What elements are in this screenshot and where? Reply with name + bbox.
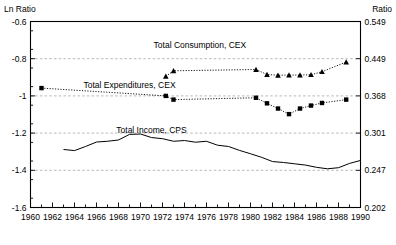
series-1-marker bbox=[164, 94, 168, 98]
y-axis-title-right: Ratio bbox=[372, 4, 392, 14]
y-tick-label-right-0: 0.549 bbox=[365, 17, 387, 27]
x-tick-label-1978: 1978 bbox=[219, 212, 238, 222]
y-tick-label-right-4: 0.247 bbox=[365, 165, 387, 175]
series-1-marker bbox=[171, 97, 175, 101]
x-tick-label-1984: 1984 bbox=[285, 212, 304, 222]
y-tick-label-left-2: -1 bbox=[19, 91, 27, 101]
series-1-marker bbox=[254, 96, 258, 100]
x-tick-label-1972: 1972 bbox=[153, 212, 172, 222]
y-tick-label-left-1: -0.8 bbox=[12, 54, 27, 64]
x-tick-label-1976: 1976 bbox=[197, 212, 216, 222]
x-tick-label-1964: 1964 bbox=[65, 212, 84, 222]
y-tick-label-left-3: -1.2 bbox=[12, 128, 27, 138]
series-1-marker bbox=[276, 106, 280, 110]
series-1-marker bbox=[39, 86, 43, 90]
series-1-marker bbox=[287, 112, 291, 116]
x-tick-label-1970: 1970 bbox=[131, 212, 150, 222]
series-1-marker bbox=[309, 103, 313, 107]
series-1-marker bbox=[344, 97, 348, 101]
chart-container: -0.6-0.8-1-1.2-1.4-1.60.5490.4490.3680.3… bbox=[0, 0, 396, 245]
series-1-marker bbox=[298, 106, 302, 110]
x-tick-label-1960: 1960 bbox=[21, 212, 40, 222]
x-tick-label-1966: 1966 bbox=[87, 212, 106, 222]
y-tick-label-right-1: 0.449 bbox=[365, 54, 387, 64]
x-tick-label-1988: 1988 bbox=[329, 212, 348, 222]
x-tick-label-1974: 1974 bbox=[175, 212, 194, 222]
series-0-marker bbox=[163, 74, 169, 79]
y-tick-label-right-2: 0.368 bbox=[365, 91, 387, 101]
series-1-marker bbox=[265, 101, 269, 105]
x-tick-label-1980: 1980 bbox=[241, 212, 260, 222]
x-tick-label-1968: 1968 bbox=[109, 212, 128, 222]
economic-ratio-line-chart: -0.6-0.8-1-1.2-1.4-1.60.5490.4490.3680.3… bbox=[0, 0, 396, 245]
x-tick-label-1982: 1982 bbox=[263, 212, 282, 222]
x-tick-label-1990: 1990 bbox=[351, 212, 370, 222]
series-label-0: Total Consumption, CEX bbox=[154, 40, 247, 50]
y-axis-title-left: Ln Ratio bbox=[4, 4, 36, 14]
y-tick-label-left-0: -0.6 bbox=[12, 17, 27, 27]
series-label-2: Total Income, CPS bbox=[116, 125, 187, 135]
x-tick-label-1986: 1986 bbox=[307, 212, 326, 222]
series-0-marker bbox=[319, 69, 325, 74]
y-tick-label-left-4: -1.4 bbox=[12, 165, 27, 175]
y-tick-label-right-3: 0.301 bbox=[365, 128, 387, 138]
series-0-marker bbox=[343, 59, 349, 64]
series-1-marker bbox=[320, 101, 324, 105]
series-label-1: Total Expenditures, CEX bbox=[83, 80, 175, 90]
x-tick-label-1962: 1962 bbox=[43, 212, 62, 222]
series-line-2 bbox=[64, 134, 361, 169]
